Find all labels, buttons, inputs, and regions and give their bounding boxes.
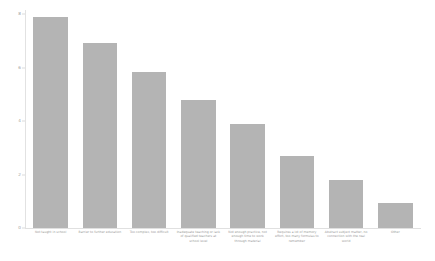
y-axis-tick-label-6: 6 [18, 65, 21, 69]
y-axis-tick-label-0: 0 [18, 226, 21, 230]
bar-chart-figure: 02468 Not taught in schoolBarrier to fur… [0, 0, 435, 261]
bar-other[interactable] [378, 203, 412, 228]
y-axis-tick-layer: 02468 [0, 0, 21, 261]
y-axis-tick-label-4: 4 [18, 119, 21, 123]
x-axis-tick-label-inadequate-teaching: Inadequate teaching or lack of qualified… [176, 230, 220, 243]
y-axis-tickmark-2 [22, 174, 25, 175]
bar-requires-memory-effort[interactable] [280, 156, 314, 228]
bar-abstract-subject-matter[interactable] [329, 180, 363, 228]
x-axis-tick-label-other: Other [373, 230, 417, 234]
x-axis-label-layer: Not taught in schoolBarrier to further e… [26, 230, 420, 261]
bar-too-complex-too-difficult[interactable] [132, 72, 166, 228]
y-axis-tick-label-8: 8 [18, 12, 21, 16]
bar-not-taught-in-school[interactable] [33, 17, 67, 228]
x-axis-tick-label-too-complex-too-difficult: Too complex, too difficult [127, 230, 171, 234]
x-axis-tick-label-not-enough-practice: Not enough practice, not enough time to … [225, 230, 269, 243]
y-axis-tickmark-8 [22, 14, 25, 15]
x-axis-tick-label-barrier-to-further-education: Barrier to further education [78, 230, 122, 234]
y-axis-tickmark-0 [22, 228, 25, 229]
bar-barrier-to-further-education[interactable] [83, 43, 117, 228]
x-axis-tick-label-not-taught-in-school: Not taught in school [28, 230, 72, 234]
x-axis-tick-label-requires-memory-effort: Requires a lot of memory effort, too man… [275, 230, 319, 243]
bar-inadequate-teaching[interactable] [181, 100, 215, 228]
y-axis-tick-label-2: 2 [18, 172, 21, 176]
bar-not-enough-practice[interactable] [230, 124, 264, 228]
x-axis-spine [25, 228, 421, 229]
bars-layer [26, 6, 420, 228]
x-axis-tick-label-abstract-subject-matter: Abstract subject matter, no connection w… [324, 230, 368, 243]
y-axis-tickmark-6 [22, 67, 25, 68]
y-axis-tickmark-4 [22, 121, 25, 122]
